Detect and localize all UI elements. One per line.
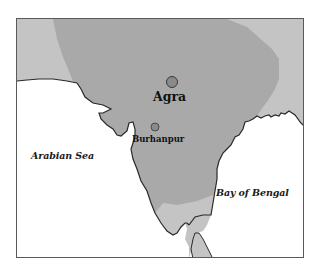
- sea-label-arabian-sea: Arabian Sea: [31, 150, 94, 161]
- sea-label-bay-of-bengal: Bay of Bengal: [216, 187, 289, 198]
- agra-marker: [167, 77, 178, 88]
- city-label-burhanpur: Burhanpur: [132, 134, 184, 144]
- burhanpur-marker: [151, 123, 159, 131]
- map-frame: Agra Burhanpur Arabian Sea Bay of Bengal: [16, 18, 304, 258]
- sri-lanka: [191, 233, 213, 258]
- city-label-agra: Agra: [153, 89, 186, 104]
